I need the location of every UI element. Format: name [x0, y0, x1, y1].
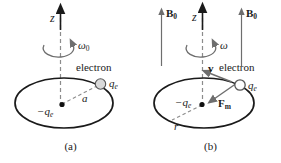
panel-a: z ω0 electron qe −qe a (a) — [0, 0, 141, 163]
center-charge-label: −qe — [37, 106, 53, 118]
fm-subscript: m — [225, 102, 231, 111]
electron-sphere — [235, 80, 245, 90]
center-charge-label: −qe — [175, 97, 191, 109]
omega-symbol: ω — [78, 39, 86, 51]
electron-text-label: electron — [76, 62, 111, 73]
b0-subscript-left: 0 — [173, 12, 177, 21]
panel-b-caption: (b) — [140, 140, 281, 152]
velocity-label: v — [208, 63, 214, 74]
angular-velocity-label: ω — [220, 40, 228, 52]
electron-text-label: electron — [219, 62, 254, 73]
z-axis-label: z — [192, 11, 197, 23]
radius-label: r — [174, 121, 178, 132]
electron-charge-label: qe — [109, 78, 118, 90]
omega-subscript: 0 — [86, 44, 90, 53]
figure-root: z ω0 electron qe −qe a (a) — [0, 0, 281, 163]
rotation-arc-arrow — [43, 45, 74, 57]
nucleus-point — [199, 102, 204, 107]
qe-subscript: e — [254, 84, 257, 93]
nucleus-point — [59, 102, 64, 107]
electron-sphere — [95, 79, 105, 89]
magnetic-field-label-left: B0 — [166, 8, 177, 20]
minus-qe-symbol: −q — [175, 96, 188, 108]
panel-b: B0 B0 z ω v electron qe −qe Fm r (b) — [140, 0, 281, 163]
z-axis-label: z — [50, 12, 55, 24]
b0-subscript-right: 0 — [253, 12, 257, 21]
magnetic-force-label: Fm — [218, 98, 231, 110]
fm-symbol: F — [218, 97, 225, 109]
radius-label: a — [82, 93, 88, 104]
rotation-arc-arrow — [186, 45, 216, 57]
panel-a-graphics — [0, 0, 141, 163]
panel-a-caption: (a) — [0, 140, 141, 152]
minus-qe-subscript: e — [188, 101, 191, 110]
angular-velocity-label: ω0 — [78, 40, 90, 52]
omega-symbol: ω — [220, 39, 228, 51]
minus-qe-symbol: −q — [37, 105, 50, 117]
minus-qe-subscript: e — [50, 110, 53, 119]
radius-dashed-line — [62, 85, 99, 104]
panel-b-graphics — [140, 0, 281, 163]
electron-charge-label: qe — [248, 80, 257, 92]
qe-subscript: e — [115, 82, 118, 91]
magnetic-field-label-right: B0 — [246, 8, 257, 20]
